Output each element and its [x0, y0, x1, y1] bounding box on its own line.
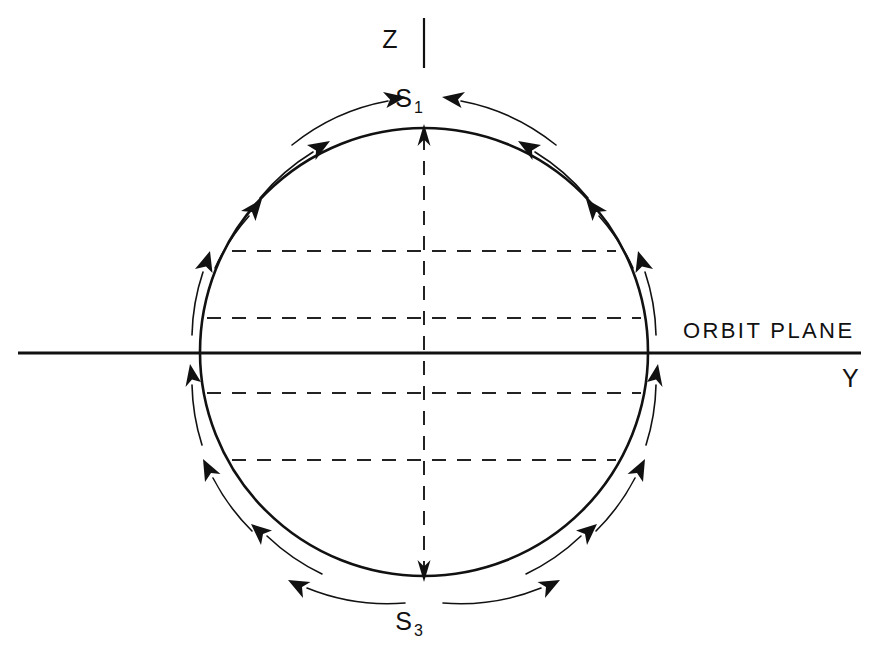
flow-arrowhead-right-6-icon [628, 459, 646, 482]
z-axis-label: Z [382, 25, 398, 53]
flow-arc-left-6 [213, 478, 252, 531]
flow-arc-right-7 [526, 536, 581, 574]
pole-bottom-label: S [395, 607, 412, 635]
pole-bottom-subscript: 3 [414, 622, 423, 639]
pole-top-subscript: 1 [414, 99, 423, 116]
flow-arc-right-5 [646, 385, 656, 445]
flow-arc-left-8 [307, 588, 405, 604]
flow-arrowhead-left-6-icon [203, 459, 221, 482]
flow-arrowhead-right-4-icon [636, 251, 654, 273]
flow-arc-left-7 [267, 536, 322, 574]
flow-arc-right-1 [461, 101, 556, 145]
flow-arc-right-8 [443, 588, 541, 604]
y-axis-label: Y [842, 364, 859, 392]
flow-arrows-right-lower [443, 364, 663, 604]
diagram-canvas: Z Y ORBIT PLANE S 1 S 3 [0, 0, 882, 647]
orbit-plane-label: ORBIT PLANE [683, 318, 854, 343]
flow-arrowhead-left-7-icon [251, 524, 272, 545]
orbit-plane-sphere-figure: Z Y ORBIT PLANE S 1 S 3 [0, 0, 882, 647]
pole-top-label: S [395, 84, 412, 112]
flow-arc-left-5 [192, 385, 202, 445]
flow-arrows-right-upper [442, 92, 656, 335]
flow-arc-right-6 [596, 478, 635, 531]
flow-arrowhead-left-8-icon [288, 580, 311, 598]
flow-arrowhead-left-4-icon [195, 251, 213, 273]
flow-arrowhead-right-8-icon [538, 580, 561, 598]
flow-arc-left-1 [292, 101, 388, 145]
flow-arrows-left-upper [192, 92, 406, 335]
flow-arrows-left-lower [186, 364, 406, 604]
flow-arrowhead-right-1-icon [442, 92, 465, 108]
flow-arrowhead-right-7-icon [576, 524, 597, 545]
flow-arrowhead-right-5-icon [647, 364, 663, 387]
flow-arrowhead-left-5-icon [186, 364, 202, 387]
